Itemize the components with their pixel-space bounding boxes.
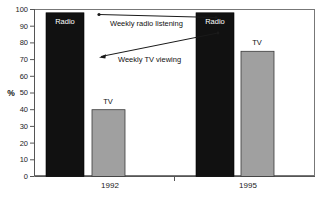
y-tick-label-10: 10	[20, 155, 28, 164]
y-tick-label-50: 50	[20, 88, 28, 97]
bar-tv-1992	[92, 110, 125, 177]
bar-tv-1995	[241, 51, 274, 176]
y-tick-label-60: 60	[20, 72, 28, 81]
x-axis-category-1992: 1992	[101, 181, 119, 190]
annotation-label-radio-listening: Weekly radio listening	[110, 19, 183, 28]
bar-label-tv-1992: TV	[103, 97, 113, 106]
y-axis-ticks: 100 90 80 70 60 50 40 30 20 10 0	[15, 5, 34, 181]
x-axis-category-1995: 1995	[239, 181, 257, 190]
y-tick-label-30: 30	[20, 122, 28, 131]
y-tick-label-100: 100	[15, 5, 28, 14]
bar-radio-1995	[196, 13, 234, 177]
bar-label-tv-1995: TV	[252, 38, 262, 47]
y-tick-label-80: 80	[20, 38, 28, 47]
chart-svg: 100 90 80 70 60 50 40 30 20 10 0 %	[0, 0, 322, 212]
y-tick-label-90: 90	[20, 22, 28, 31]
annotation-label-tv-viewing: Weekly TV viewing	[118, 55, 181, 64]
bar-label-radio-1992: Radio	[55, 17, 75, 26]
y-tick-label-40: 40	[20, 105, 28, 114]
y-axis-title: %	[7, 88, 15, 98]
annotation-marker-start-radio-listening	[97, 13, 100, 16]
y-tick-label-70: 70	[20, 55, 28, 64]
annotation-marker-end-tv-viewing	[217, 32, 220, 35]
bar-radio-1992	[46, 13, 84, 177]
annotation-marker-end-radio-listening	[214, 16, 217, 19]
y-tick-label-0: 0	[24, 172, 28, 181]
y-tick-label-20: 20	[20, 139, 28, 148]
bar-chart: 100 90 80 70 60 50 40 30 20 10 0 %	[0, 0, 322, 212]
